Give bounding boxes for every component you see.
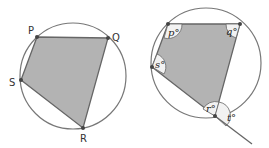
angle-r-label: r° — [206, 103, 216, 114]
vertex-p — [166, 22, 170, 26]
point-s — [19, 78, 23, 82]
angle-t-label: t° — [227, 112, 236, 123]
angle-s-label: s° — [155, 59, 165, 70]
label-r: R — [80, 133, 87, 144]
left-diagram: P Q R S — [9, 23, 126, 144]
point-q — [106, 36, 110, 40]
label-s: S — [9, 77, 15, 88]
angle-q-label: q° — [226, 26, 237, 37]
vertex-q — [238, 22, 242, 26]
vertex-r — [213, 114, 217, 118]
quadrilateral-pqrs — [21, 37, 108, 128]
point-p — [35, 35, 39, 39]
vertex-s — [150, 65, 154, 69]
point-r — [81, 126, 85, 130]
cyclic-quadrilateral-figures: P Q R S p° q° s° r° t° — [0, 0, 269, 148]
label-p: P — [28, 25, 34, 36]
angle-p-label: p° — [168, 27, 179, 38]
right-diagram: p° q° s° r° t° — [150, 8, 261, 144]
label-q: Q — [112, 32, 120, 43]
